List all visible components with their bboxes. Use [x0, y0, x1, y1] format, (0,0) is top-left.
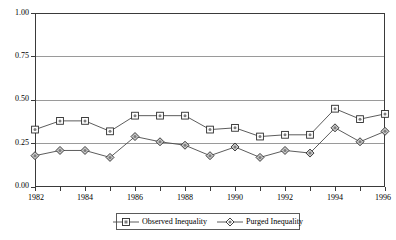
data-point-core	[34, 128, 37, 131]
data-point-core	[59, 149, 62, 152]
data-point-core	[84, 149, 87, 152]
data-point-core	[84, 119, 87, 122]
data-point-core	[134, 135, 137, 138]
data-point-core	[234, 145, 237, 148]
data-point-core	[309, 133, 312, 136]
chart-legend: Observed Inequality Purged Inequality	[116, 213, 300, 230]
data-point-core	[59, 119, 62, 122]
legend-swatch-diamond-icon	[217, 217, 243, 227]
legend-label-observed: Observed Inequality	[141, 217, 207, 226]
data-point-core	[134, 114, 137, 117]
data-point-core	[359, 118, 362, 121]
data-point-core	[109, 156, 112, 159]
data-point-core	[334, 107, 337, 110]
data-point-core	[184, 144, 187, 147]
series-layer	[0, 0, 396, 240]
data-point-core	[109, 130, 112, 133]
data-point-core	[159, 140, 162, 143]
legend-entry-observed: Observed Inequality	[113, 217, 207, 227]
series-observed-inequality	[32, 105, 389, 140]
data-point-core	[259, 156, 262, 159]
data-point-core	[384, 112, 387, 115]
legend-swatch-square-icon	[113, 217, 139, 227]
data-point-core	[209, 154, 212, 157]
data-point-core	[284, 149, 287, 152]
data-point-core	[309, 152, 312, 155]
legend-label-purged: Purged Inequality	[245, 217, 303, 226]
data-point-core	[334, 126, 337, 129]
inequality-line-chart: 1.00 0.75 0.50 0.25 0.00 1982 1984	[0, 0, 396, 240]
data-point-core	[209, 128, 212, 131]
legend-entry-purged: Purged Inequality	[217, 217, 303, 227]
data-point-core	[259, 135, 262, 138]
data-point-core	[34, 154, 37, 157]
data-point-core	[384, 130, 387, 133]
data-point-core	[359, 140, 362, 143]
data-point-core	[234, 126, 237, 129]
data-point-core	[284, 133, 287, 136]
data-point-core	[184, 114, 187, 117]
data-point-core	[159, 114, 162, 117]
